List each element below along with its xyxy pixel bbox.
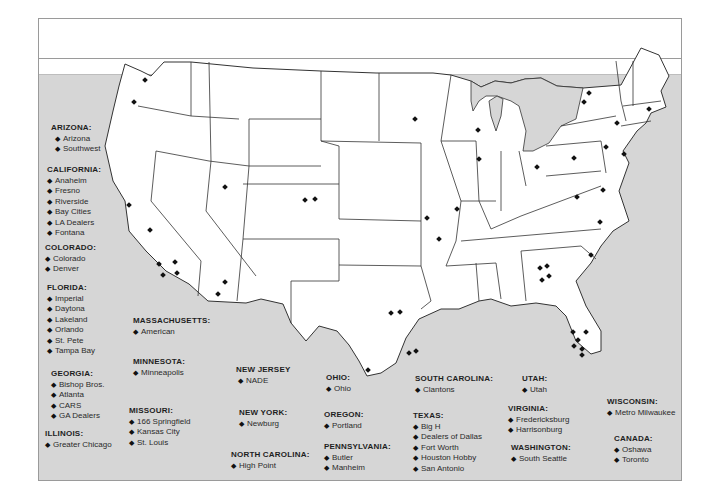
- legend-ohio: OHIO: Ohio: [326, 373, 351, 394]
- legend-state-title: MISSOURI:: [129, 406, 190, 417]
- legend-oregon: OREGON: Portland: [324, 410, 364, 431]
- legend-state-title: OREGON:: [324, 410, 364, 421]
- legend-state-title: CANADA:: [614, 434, 653, 445]
- legend-location: GA Dealers: [51, 411, 104, 422]
- legend-location: Harrisonburg: [508, 425, 569, 436]
- legend-texas: TEXAS: Big H Dealers of Dallas Fort Wort…: [413, 411, 482, 474]
- legend-new-jersey: NEW JERSEY NADE: [236, 365, 290, 386]
- map-frame: ARIZONA: Arizona Southwest CALIFORNIA: A…: [38, 18, 682, 481]
- legend-florida: FLORIDA: Imperial Daytona Lakeland Orlan…: [47, 283, 95, 357]
- legend-state-title: MASSACHUSETTS:: [133, 316, 210, 327]
- legend-state-title: FLORIDA:: [47, 283, 95, 294]
- legend-location: Houston Hobby: [413, 453, 482, 464]
- legend-location: St. Louis: [129, 438, 190, 449]
- legend-location: Southwest: [51, 144, 100, 155]
- legend-state-title: OHIO:: [326, 373, 351, 384]
- legend-location: Fresno: [47, 186, 101, 197]
- legend-location: Portland: [324, 421, 364, 432]
- legend-location: Newburg: [239, 419, 287, 430]
- legend-virginia: VIRGINIA: Fredericksburg Harrisonburg: [508, 404, 569, 436]
- legend-location: San Antonio: [413, 464, 482, 475]
- legend-pennsylvania: PENNSYLVANIA: Butler Manheim: [324, 442, 391, 474]
- legend-location: Minneapolis: [133, 368, 185, 379]
- legend-south-carolina: SOUTH CAROLINA: Clantons: [415, 374, 493, 395]
- legend-location: Clantons: [415, 385, 493, 396]
- legend-state-title: PENNSYLVANIA:: [324, 442, 391, 453]
- legend-state-title: COLORADO:: [45, 243, 96, 254]
- legend-california: CALIFORNIA: Anaheim Fresno Riverside Bay…: [47, 165, 101, 239]
- legend-location: Toronto: [614, 455, 653, 466]
- legend-location: Tampa Bay: [47, 346, 95, 357]
- legend-location: Utah: [522, 385, 547, 396]
- marker-tx3: [406, 350, 412, 356]
- legend-missouri: MISSOURI: 166 Springfield Kansas City St…: [129, 406, 190, 448]
- legend-location: South Seattle: [511, 454, 571, 465]
- legend-location: Denver: [45, 264, 96, 275]
- legend-location: Imperial: [47, 294, 95, 305]
- legend-location: LA Dealers: [47, 218, 101, 229]
- legend-state-title: ARIZONA:: [51, 123, 100, 134]
- legend-state-title: UTAH:: [522, 374, 547, 385]
- legend-location: Ohio: [326, 384, 351, 395]
- legend-state-title: TEXAS:: [413, 411, 482, 422]
- legend-location: Atlanta: [51, 390, 104, 401]
- legend-state-title: MINNESOTA:: [133, 357, 185, 368]
- legend-location: Kansas City: [129, 427, 190, 438]
- legend-canada: CANADA: Oshawa Toronto: [614, 434, 653, 466]
- legend-location: St. Pete: [47, 336, 95, 347]
- legend-location: Anaheim: [47, 176, 101, 187]
- legend-location: Manheim: [324, 463, 391, 474]
- legend-washington: WASHINGTON: South Seattle: [511, 443, 571, 464]
- legend-location: Riverside: [47, 197, 101, 208]
- legend-georgia: GEORGIA: Bishop Bros. Atlanta CARS GA De…: [51, 369, 104, 422]
- legend-minnesota: MINNESOTA: Minneapolis: [133, 357, 185, 378]
- legend-location: Daytona: [47, 304, 95, 315]
- legend-location: Fredericksburg: [508, 415, 569, 426]
- legend-location: NADE: [236, 376, 290, 387]
- legend-location: Metro Milwaukee: [607, 408, 675, 419]
- legend-wisconsin: WISCONSIN: Metro Milwaukee: [607, 397, 675, 418]
- legend-location: 166 Springfield: [129, 417, 190, 428]
- legend-location: Fort Worth: [413, 443, 482, 454]
- legend-state-title: CALIFORNIA:: [47, 165, 101, 176]
- legend-location: Oshawa: [614, 445, 653, 456]
- legend-location: CARS: [51, 401, 104, 412]
- legend-colorado: COLORADO: Colorado Denver: [45, 243, 96, 275]
- legend-state-title: NORTH CAROLINA:: [231, 450, 310, 461]
- legend-location: Butler: [324, 453, 391, 464]
- legend-illinois: ILLINOIS: Greater Chicago: [45, 429, 112, 450]
- legend-massachusetts: MASSACHUSETTS: American: [133, 316, 210, 337]
- legend-state-title: NEW YORK:: [239, 408, 287, 419]
- marker-fl4: [571, 343, 577, 349]
- legend-utah: UTAH: Utah: [522, 374, 547, 395]
- legend-arizona: ARIZONA: Arizona Southwest: [51, 123, 100, 155]
- legend-location: Dealers of Dallas: [413, 432, 482, 443]
- legend-state-title: VIRGINIA:: [508, 404, 569, 415]
- legend-location: Lakeland: [47, 315, 95, 326]
- legend-location: American: [133, 327, 210, 338]
- legend-state-title: SOUTH CAROLINA:: [415, 374, 493, 385]
- legend-state-title: NEW JERSEY: [236, 365, 290, 376]
- legend-north-carolina: NORTH CAROLINA: High Point: [231, 450, 310, 471]
- legend-new-york: NEW YORK: Newburg: [239, 408, 287, 429]
- legend-location: Colorado: [45, 254, 96, 265]
- legend-location: Bay Cities: [47, 207, 101, 218]
- legend-location: Bishop Bros.: [51, 380, 104, 391]
- legend-state-title: WISCONSIN:: [607, 397, 675, 408]
- marker-tx4: [413, 348, 419, 354]
- legend-location: Big H: [413, 422, 482, 433]
- legend-state-title: ILLINOIS:: [45, 429, 112, 440]
- legend-location: Orlando: [47, 325, 95, 336]
- marker-ca-la3: [160, 272, 166, 278]
- legend-location: High Point: [231, 461, 310, 472]
- legend-state-title: WASHINGTON:: [511, 443, 571, 454]
- legend-state-title: GEORGIA:: [51, 369, 104, 380]
- legend-location: Greater Chicago: [45, 440, 112, 451]
- legend-location: Fontana: [47, 228, 101, 239]
- legend-location: Arizona: [51, 134, 100, 145]
- marker-fl6: [579, 352, 585, 358]
